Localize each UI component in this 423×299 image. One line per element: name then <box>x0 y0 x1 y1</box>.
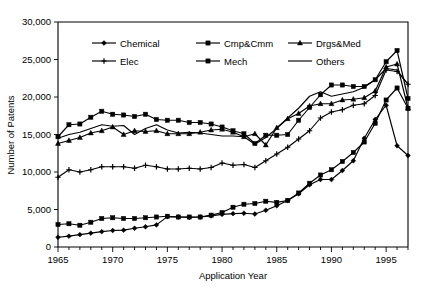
data-point-marker <box>351 150 355 154</box>
data-point-marker <box>340 159 344 163</box>
legend-label: Cmp&Cmm <box>224 38 273 49</box>
data-point-marker <box>198 215 202 219</box>
legend-marker-square-icon <box>206 41 210 45</box>
x-tick-label: 1980 <box>211 254 232 265</box>
data-point-marker <box>56 222 60 226</box>
x-tick-label: 1965 <box>47 254 68 265</box>
x-tick-label: 1985 <box>266 254 287 265</box>
data-point-marker <box>100 216 104 220</box>
data-point-marker <box>340 83 344 87</box>
legend-label: Drgs&Med <box>316 38 361 49</box>
data-point-marker <box>264 199 268 203</box>
data-point-marker <box>384 60 388 64</box>
x-tick-label: 1970 <box>102 254 123 265</box>
legend-label: Elec <box>120 56 139 67</box>
data-point-marker <box>122 113 126 117</box>
data-point-marker <box>143 216 147 220</box>
y-tick-label: 25,000 <box>22 54 51 65</box>
data-point-marker <box>209 213 213 217</box>
legend-label: Chemical <box>120 38 160 49</box>
y-tick-label: 10,000 <box>22 166 51 177</box>
data-point-marker <box>209 122 213 126</box>
y-axis-title: Number of Patents <box>5 95 16 174</box>
data-point-marker <box>275 133 279 137</box>
data-point-marker <box>132 114 136 118</box>
data-point-marker <box>231 205 235 209</box>
y-tick-label: 15,000 <box>22 129 51 140</box>
x-tick-label: 1995 <box>376 254 397 265</box>
data-point-marker <box>89 220 93 224</box>
data-point-marker <box>111 216 115 220</box>
data-point-marker <box>176 215 180 219</box>
data-point-marker <box>318 93 322 97</box>
data-point-marker <box>395 86 399 90</box>
data-point-marker <box>220 210 224 214</box>
data-point-marker <box>406 106 410 110</box>
data-point-marker <box>165 118 169 122</box>
data-point-marker <box>100 109 104 113</box>
data-point-marker <box>297 191 301 195</box>
y-tick-label: 0 <box>46 241 51 252</box>
x-tick-label: 1990 <box>321 254 342 265</box>
data-point-marker <box>154 117 158 121</box>
legend-label: Mech <box>224 56 247 67</box>
data-point-marker <box>78 122 82 126</box>
data-point-marker <box>154 215 158 219</box>
data-point-marker <box>318 173 322 177</box>
patent-trend-line-chart: 05,00010,00015,00020,00025,00030,000 196… <box>0 0 423 299</box>
data-point-marker <box>384 98 388 102</box>
y-tick-label: 5,000 <box>27 204 51 215</box>
legend-marker-square-icon <box>206 59 210 63</box>
data-point-marker <box>329 168 333 172</box>
data-point-marker <box>297 118 301 122</box>
data-point-marker <box>253 201 257 205</box>
data-point-marker <box>187 215 191 219</box>
data-point-marker <box>373 121 377 125</box>
x-tick-label: 1975 <box>157 254 178 265</box>
data-point-marker <box>286 198 290 202</box>
data-point-marker <box>198 120 202 124</box>
data-point-marker <box>395 48 399 52</box>
data-point-marker <box>165 214 169 218</box>
data-point-marker <box>132 216 136 220</box>
x-axis-title: Application Year <box>199 270 267 281</box>
data-point-marker <box>242 202 246 206</box>
data-point-marker <box>351 84 355 88</box>
data-point-marker <box>187 120 191 124</box>
data-point-marker <box>89 115 93 119</box>
data-point-marker <box>67 222 71 226</box>
data-point-marker <box>307 181 311 185</box>
data-point-marker <box>286 132 290 136</box>
data-point-marker <box>111 112 115 116</box>
legend-label: Others <box>316 56 345 67</box>
chart-figure: 05,00010,00015,00020,00025,00030,000 196… <box>0 0 423 299</box>
data-point-marker <box>122 216 126 220</box>
y-tick-label: 20,000 <box>22 91 51 102</box>
y-tick-label: 30,000 <box>22 16 51 27</box>
data-point-marker <box>275 200 279 204</box>
data-point-marker <box>67 123 71 127</box>
data-point-marker <box>143 112 147 116</box>
data-point-marker <box>329 83 333 87</box>
data-point-marker <box>176 118 180 122</box>
data-point-marker <box>362 140 366 144</box>
data-point-marker <box>78 223 82 227</box>
